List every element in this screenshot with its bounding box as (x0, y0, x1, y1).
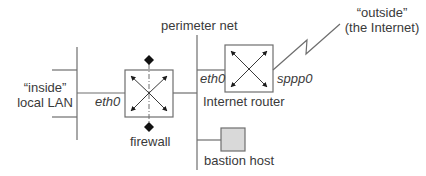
outside-label-line1: “outside” (342, 5, 422, 20)
network-diagram: “inside” local LAN eth0 firewall perimet… (0, 0, 426, 176)
inside-label-line2: local LAN (14, 95, 76, 110)
perimeter-net-label: perimeter net (161, 18, 238, 33)
bastion-host-label: bastion host (204, 153, 274, 168)
firewall-eth0-label: eth0 (95, 94, 120, 109)
firewall-label: firewall (130, 134, 170, 149)
inside-label-line1: “inside” (14, 80, 76, 95)
router-icon (225, 45, 273, 92)
outside-label-line2: (the Internet) (342, 20, 422, 35)
firewall-icon (125, 55, 173, 132)
internet-router-label: Internet router (203, 94, 285, 109)
inside-lan-label: “inside” local LAN (14, 80, 76, 110)
outside-internet-label: “outside” (the Internet) (342, 5, 422, 35)
bastion-host-icon (221, 128, 245, 151)
router-sppp0-label: sppp0 (277, 71, 312, 86)
diamond-icon (144, 55, 154, 65)
lightning-link-icon (273, 24, 340, 70)
router-eth0-label: eth0 (200, 71, 225, 86)
diamond-icon (144, 122, 154, 132)
